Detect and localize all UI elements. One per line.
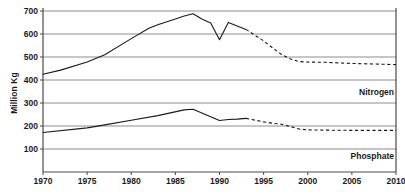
series-line-dashed-phosphate — [246, 118, 396, 130]
plot-area — [0, 0, 405, 195]
chart-container: Million Kg 100200300400500600700 1970197… — [0, 0, 405, 195]
series-line-solid-phosphate — [43, 109, 246, 132]
series-line-dashed-nitrogen — [246, 29, 396, 64]
series-line-solid-nitrogen — [43, 14, 246, 74]
